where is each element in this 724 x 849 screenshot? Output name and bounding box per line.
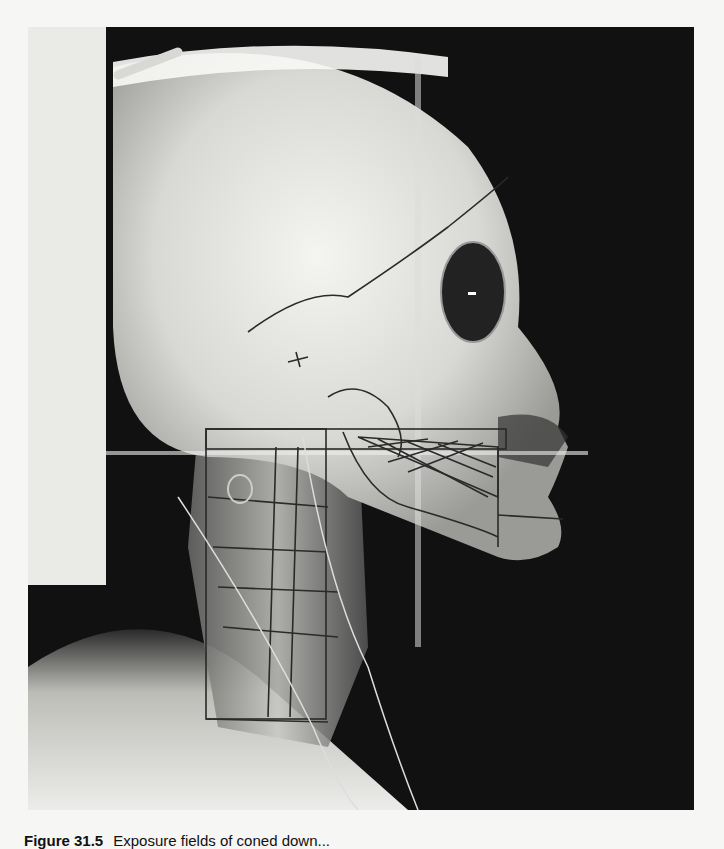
caption-text: Exposure fields of coned down...: [113, 832, 330, 849]
radiograph-image: [28, 27, 694, 810]
figure-caption: Figure 31.5Exposure fields of coned down…: [24, 832, 330, 849]
caption-label: Figure 31.5: [24, 832, 103, 849]
radiograph-figure: [28, 27, 694, 810]
film-edge-strip: [28, 27, 106, 585]
